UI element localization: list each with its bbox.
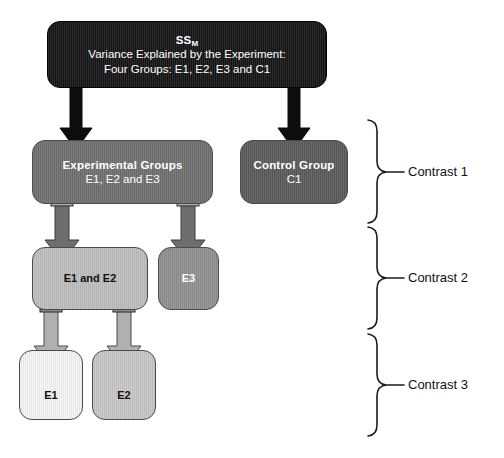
node-experimental-groups-subtitle: E1, E2 and E3 — [81, 172, 163, 186]
node-experimental-groups-title: Experimental Groups — [58, 158, 186, 172]
node-ssm-line3: Four Groups: E1, E2, E3 and C1 — [100, 62, 274, 76]
node-e1[interactable]: E1 — [19, 350, 83, 420]
node-ssm-title: SSM — [172, 33, 203, 47]
contrast-label-1: Contrast 1 — [408, 164, 468, 179]
node-ssm[interactable]: SSM Variance Explained by the Experiment… — [47, 21, 327, 88]
brace-contrast-3 — [368, 334, 386, 436]
node-e1-and-e2[interactable]: E1 and E2 — [32, 247, 148, 310]
node-e1-and-e2-label: E1 and E2 — [60, 272, 121, 286]
node-e3[interactable]: E3 — [158, 247, 219, 310]
node-e1-label: E1 — [40, 389, 61, 403]
node-ssm-line2: Variance Explained by the Experiment: — [84, 47, 289, 61]
node-control-group-title: Control Group — [249, 158, 338, 172]
node-e2-label: E2 — [113, 389, 134, 403]
node-texture — [20, 351, 82, 419]
node-texture — [93, 351, 155, 419]
brace-contrast-1 — [368, 120, 386, 223]
contrast-label-3: Contrast 3 — [408, 377, 468, 392]
node-e2[interactable]: E2 — [92, 350, 156, 420]
contrast-label-2: Contrast 2 — [408, 270, 468, 285]
node-e3-label: E3 — [178, 272, 199, 286]
diagram-canvas: SSM Variance Explained by the Experiment… — [0, 0, 504, 458]
node-experimental-groups[interactable]: Experimental Groups E1, E2 and E3 — [32, 140, 213, 204]
brace-contrast-2 — [368, 227, 386, 329]
node-control-group-subtitle: C1 — [283, 172, 306, 186]
node-control-group[interactable]: Control Group C1 — [240, 140, 348, 204]
